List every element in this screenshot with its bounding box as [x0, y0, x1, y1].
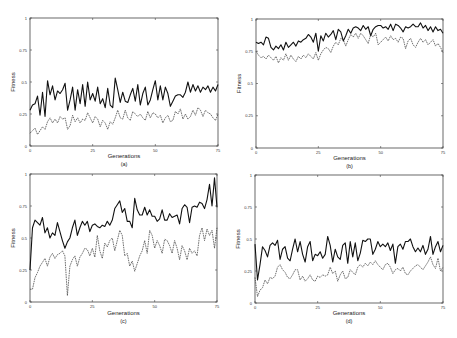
x-tick-label: 50 [378, 305, 383, 310]
average-fitness-line [255, 257, 443, 297]
y-axis-label: Fitness [10, 228, 16, 247]
x-tick-label: 75 [215, 304, 220, 309]
best-fitness-line [30, 78, 218, 116]
plot-frame [256, 19, 443, 148]
y-axis-label: Fitness [10, 72, 16, 91]
subplot-label: (d) [346, 318, 353, 324]
x-axis-label: Generations [107, 310, 140, 316]
y-tick-label: 1 [251, 17, 254, 22]
x-tick-label: 50 [152, 304, 157, 309]
panel-a: 00.250.50.7510255075GenerationsFitness(a… [10, 16, 221, 168]
figure-canvas: 00.250.50.7510255075GenerationsFitness(a… [0, 0, 457, 338]
y-tick-label: 0.75 [19, 204, 28, 209]
y-tick-label: 0.25 [245, 113, 254, 118]
x-tick-label: 25 [90, 148, 95, 153]
y-tick-label: 0 [251, 146, 254, 151]
y-tick-label: 0.75 [245, 49, 254, 54]
y-tick-label: 0 [25, 144, 28, 149]
average-fitness-line [30, 228, 217, 296]
subplot-label: (b) [346, 163, 353, 169]
x-tick-label: 25 [315, 305, 320, 310]
y-axis-label: Fitness [236, 74, 242, 93]
y-tick-label: 0.5 [21, 236, 27, 241]
y-tick-label: 0.5 [246, 237, 252, 242]
x-tick-label: 0 [29, 304, 32, 309]
x-tick-label: 0 [29, 148, 32, 153]
y-tick-label: 1 [25, 16, 28, 21]
y-tick-label: 0 [25, 300, 28, 305]
y-tick-label: 0.75 [244, 205, 253, 210]
x-tick-label: 25 [316, 150, 321, 155]
x-axis-label: Generations [108, 153, 141, 159]
average-fitness-line [30, 108, 218, 135]
x-tick-label: 25 [90, 304, 95, 309]
y-tick-label: 1 [250, 173, 253, 178]
y-tick-label: 0.25 [244, 269, 253, 274]
panel-b: 00.250.50.7510255075GenerationsFitness(b… [236, 17, 446, 170]
x-tick-label: 0 [254, 305, 257, 310]
x-tick-label: 0 [255, 150, 258, 155]
y-tick-label: 1 [25, 172, 28, 177]
plot-frame [30, 18, 218, 146]
y-tick-label: 0.5 [21, 80, 27, 85]
panel-d: 00.250.50.7510255075GenerationsFitness(d… [235, 173, 446, 325]
subplot-label: (c) [120, 318, 127, 324]
y-tick-label: 0.25 [19, 268, 28, 273]
x-axis-label: Generations [333, 155, 366, 161]
y-tick-label: 0.5 [247, 81, 253, 86]
subplot-label: (a) [121, 161, 128, 167]
x-tick-label: 75 [216, 148, 221, 153]
y-tick-label: 0.25 [19, 112, 28, 117]
y-tick-label: 0.75 [19, 48, 28, 53]
y-tick-label: 0 [250, 301, 253, 306]
x-tick-label: 50 [378, 150, 383, 155]
x-tick-label: 75 [441, 150, 446, 155]
panel-c: 00.250.50.7510255075GenerationsFitness(c… [10, 172, 220, 325]
plot-frame [30, 174, 217, 302]
x-axis-label: Generations [333, 310, 366, 316]
x-tick-label: 75 [441, 305, 446, 310]
best-fitness-line [30, 178, 217, 270]
plot-frame [255, 175, 443, 303]
x-tick-label: 50 [153, 148, 158, 153]
y-axis-label: Fitness [235, 229, 241, 248]
